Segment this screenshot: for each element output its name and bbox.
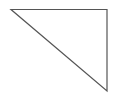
right-triangle-shape: [11, 10, 107, 92]
diagram-canvas: [0, 0, 113, 102]
triangle-diagram: [0, 0, 113, 102]
